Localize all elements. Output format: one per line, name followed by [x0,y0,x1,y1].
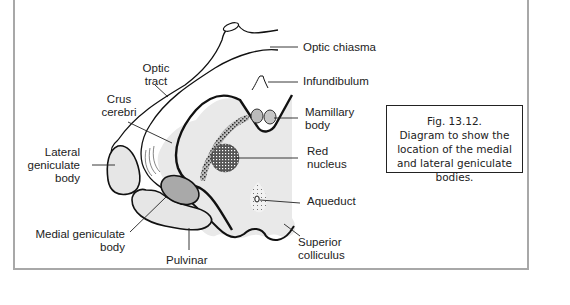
label-crus-cerebri-line2: cerebri [94,106,144,119]
label-pulvinar: Pulvinar [166,254,208,267]
lateral-geniculate-body [107,146,140,195]
label-mamillary-body: Mamillary body [305,106,354,132]
label-lgb-line1: Lateral [20,146,80,159]
red-nucleus [211,144,239,172]
label-mamillary-body-line2: body [305,119,354,132]
label-optic-tract: Optic tract [136,62,176,88]
label-aqueduct: Aqueduct [307,195,356,208]
label-crus-cerebri: Crus cerebri [94,93,144,119]
label-optic-chiasma: Optic chiasma [303,41,376,54]
mamillary-body-right [264,110,276,124]
aqueduct [255,196,259,202]
label-lgb-line3: body [20,172,80,185]
infundibulum-shape [252,76,268,90]
figure-caption: Fig. 13.12. Diagram to show the location… [386,105,523,173]
caption-line-3: location of the medial [387,142,522,156]
label-sc-line1: Superior [298,236,345,249]
label-optic-tract-line2: tract [136,75,176,88]
label-mamillary-body-line1: Mamillary [305,106,354,119]
caption-line-4: and lateral geniculate [387,156,522,170]
label-mgb-line1: Medial geniculate [30,228,125,241]
label-sc-line2: colliculus [298,249,345,262]
label-medial-geniculate-body: Medial geniculate body [30,228,125,254]
label-red-nucleus-line2: nucleus [307,158,347,171]
label-lateral-geniculate-body: Lateral geniculate body [20,146,80,185]
label-infundibulum: Infundibulum [303,75,369,88]
caption-line-2: Diagram to show the [387,128,522,142]
label-lgb-line2: geniculate [20,159,80,172]
label-red-nucleus: Red nucleus [307,145,347,171]
mamillary-body-left [251,109,263,123]
caption-line-1: Fig. 13.12. [387,114,522,128]
label-superior-colliculus: Superior colliculus [298,236,345,262]
label-mgb-line2: body [30,241,125,254]
label-red-nucleus-line1: Red [307,145,347,158]
caption-line-5: bodies. [387,170,522,184]
label-optic-tract-line1: Optic [136,62,176,75]
label-crus-cerebri-line1: Crus [94,93,144,106]
